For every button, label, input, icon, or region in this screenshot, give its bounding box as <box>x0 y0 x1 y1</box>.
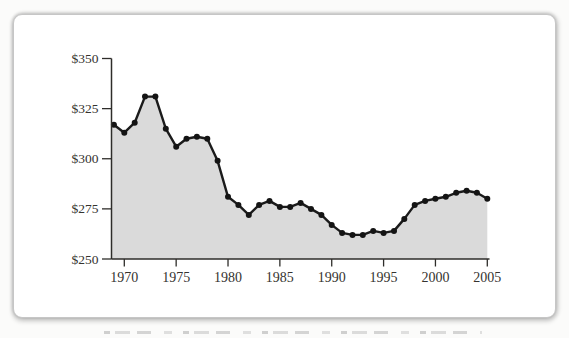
data-point <box>308 206 314 212</box>
x-tick-label: 2000 <box>421 270 449 285</box>
x-tick-label: 1980 <box>214 270 242 285</box>
y-tick-label: $300 <box>72 151 99 166</box>
data-point <box>267 198 273 204</box>
data-point <box>132 120 138 126</box>
cut-off-caption-text <box>104 331 482 334</box>
x-tick-label: 1970 <box>110 270 138 285</box>
data-point <box>152 94 158 100</box>
data-point <box>173 144 179 150</box>
data-point <box>381 230 387 236</box>
data-point <box>142 94 148 100</box>
data-point <box>163 126 169 132</box>
x-tick-label: 1995 <box>370 270 398 285</box>
data-point <box>412 202 418 208</box>
data-point <box>453 190 459 196</box>
y-tick-label: $350 <box>72 51 99 66</box>
x-tick-label: 2005 <box>473 270 501 285</box>
data-point <box>215 158 221 164</box>
data-point <box>329 222 335 228</box>
x-tick-label: 1975 <box>162 270 190 285</box>
data-point <box>401 216 407 222</box>
data-point <box>360 232 366 238</box>
data-point <box>184 136 190 142</box>
x-tick-label: 1985 <box>266 270 294 285</box>
y-tick-label: $325 <box>72 101 99 116</box>
data-point <box>225 194 231 200</box>
data-point <box>370 228 376 234</box>
x-tick-label: 1990 <box>318 270 346 285</box>
data-point <box>318 212 324 218</box>
data-point <box>246 212 252 218</box>
data-point <box>235 202 241 208</box>
data-point <box>277 204 283 210</box>
data-point <box>391 228 397 234</box>
data-point <box>204 136 210 142</box>
data-point <box>287 204 293 210</box>
data-point <box>422 198 428 204</box>
area-fill <box>112 97 488 259</box>
page-background: $350$325$300$275$25019701975198019851990… <box>0 0 569 338</box>
y-tick-label: $250 <box>72 252 99 267</box>
data-point <box>484 196 490 202</box>
data-point <box>443 194 449 200</box>
data-point <box>432 196 438 202</box>
data-point <box>464 188 470 194</box>
data-point <box>474 190 480 196</box>
data-point <box>256 202 262 208</box>
data-point <box>298 200 304 206</box>
y-tick-label: $275 <box>72 201 99 216</box>
data-point <box>339 230 345 236</box>
data-point <box>121 130 127 136</box>
data-point <box>194 134 200 140</box>
line-chart: $350$325$300$275$25019701975198019851990… <box>0 0 569 338</box>
data-point <box>350 232 356 238</box>
